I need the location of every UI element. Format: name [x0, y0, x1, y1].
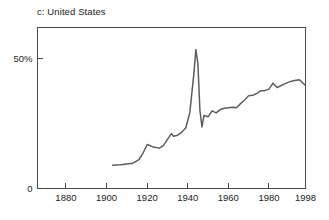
x-tick-label: 1920: [137, 192, 158, 203]
plot-frame: [38, 28, 306, 189]
x-tick-label: 1960: [218, 192, 239, 203]
y-tick-label: 50%: [13, 53, 33, 64]
x-tick-label: 1940: [177, 192, 198, 203]
x-tick-label: 1900: [96, 192, 117, 203]
x-tick-label: 1980: [258, 192, 279, 203]
y-tick-label: 0: [27, 183, 32, 194]
series-line-united-states: [113, 50, 306, 166]
y-axis-ticks: 050%: [13, 53, 42, 193]
x-axis-ticks: 1880190019201940196019801998: [55, 183, 316, 203]
chart-figure: c: United States 050% 188019001920194019…: [0, 0, 329, 220]
x-tick-label: 1880: [55, 192, 76, 203]
data-series-group: [113, 50, 306, 166]
chart-plot-area: 050% 1880190019201940196019801998: [0, 0, 329, 220]
x-tick-label: 1998: [295, 192, 316, 203]
